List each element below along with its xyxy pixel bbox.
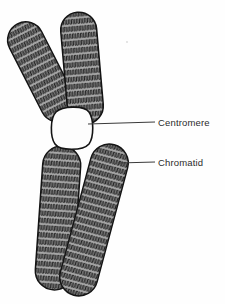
centromere-leader-line [88,122,155,124]
centromere-shape [51,107,92,149]
centromere-label: Centromere [158,117,210,128]
chromosome-diagram-figure: Centromere Chromatid [0,0,225,304]
paper-speck [126,41,128,43]
centromere-region [51,107,92,149]
chromatid-label: Chromatid [158,157,203,168]
chromosome-illustration [0,0,225,304]
